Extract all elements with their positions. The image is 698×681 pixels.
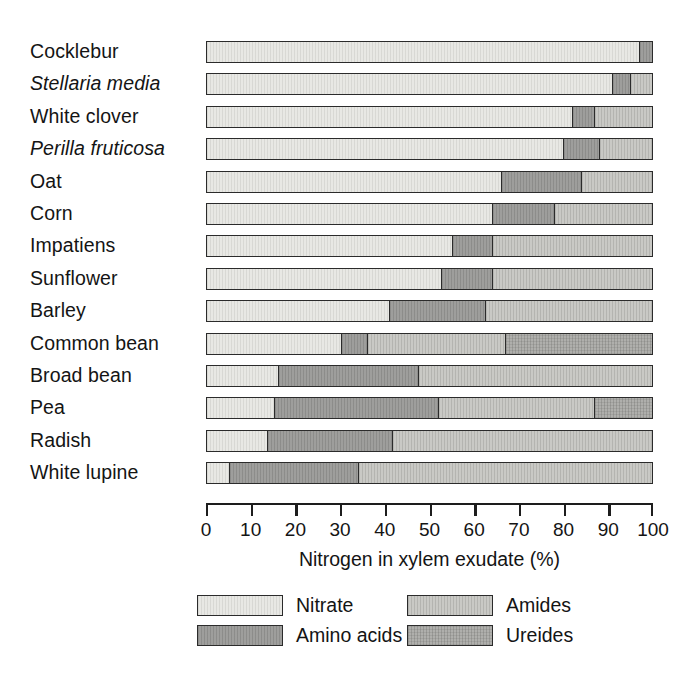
stacked-bar bbox=[206, 138, 653, 160]
figure-nitrogen-xylem-exudate: CockleburStellaria mediaWhite cloverPeri… bbox=[0, 0, 698, 681]
bar-segment-nitrate bbox=[207, 366, 278, 386]
bar-row bbox=[206, 263, 653, 295]
category-label: Impatiens bbox=[0, 230, 196, 262]
bar-segment-nitrate bbox=[207, 107, 572, 127]
category-label: Pea bbox=[0, 392, 196, 424]
stacked-bar bbox=[206, 203, 653, 225]
legend-swatch-amides bbox=[407, 595, 493, 616]
bar-segment-amino-acids bbox=[229, 463, 358, 483]
chart-legend: NitrateAmidesAmino acidsUreides bbox=[197, 590, 617, 650]
x-axis-tick bbox=[251, 503, 253, 516]
bar-segment-amides bbox=[358, 463, 652, 483]
bar-segment-nitrate bbox=[207, 398, 274, 418]
stacked-bar bbox=[206, 106, 653, 128]
bar-row bbox=[206, 295, 653, 327]
x-axis-tick bbox=[430, 503, 432, 516]
x-axis-tick-label: 10 bbox=[240, 519, 261, 541]
bar-segment-amino-acids bbox=[563, 139, 599, 159]
bar-segment-nitrate bbox=[207, 139, 563, 159]
x-axis-tick-label: 30 bbox=[330, 519, 351, 541]
bar-segment-amides bbox=[594, 107, 652, 127]
stacked-bar bbox=[206, 300, 653, 322]
x-axis-tick bbox=[340, 503, 342, 516]
x-axis-title: Nitrogen in xylem exudate (%) bbox=[206, 548, 653, 571]
legend-row: Amino acidsUreides bbox=[197, 620, 617, 650]
stacked-bar bbox=[206, 397, 653, 419]
bar-segment-nitrate bbox=[207, 463, 229, 483]
legend-label: Ureides bbox=[506, 624, 573, 647]
x-axis-tick-label: 40 bbox=[374, 519, 395, 541]
bar-segment-nitrate bbox=[207, 301, 389, 321]
category-label: Perilla fruticosa bbox=[0, 133, 196, 165]
legend-label: Amides bbox=[506, 594, 571, 617]
bar-segment-amino-acids bbox=[341, 334, 368, 354]
x-axis-tick-label: 100 bbox=[637, 519, 669, 541]
bar-segment-amino-acids bbox=[612, 74, 630, 94]
bar-row bbox=[206, 425, 653, 457]
legend-label: Amino acids bbox=[296, 624, 402, 647]
bar-segment-nitrate bbox=[207, 236, 452, 256]
bar-segment-nitrate bbox=[207, 269, 441, 289]
bar-segment-amides bbox=[485, 301, 652, 321]
x-axis-tick bbox=[206, 503, 208, 516]
x-axis-tick-label: 50 bbox=[419, 519, 440, 541]
x-axis-tick bbox=[519, 503, 521, 516]
category-label: Barley bbox=[0, 295, 196, 327]
x-axis-tick-label: 60 bbox=[464, 519, 485, 541]
category-label: Stellaria media bbox=[0, 68, 196, 100]
stacked-bar bbox=[206, 235, 653, 257]
legend-item-nitrate: Nitrate bbox=[197, 594, 407, 617]
bar-row bbox=[206, 101, 653, 133]
legend-item-amides: Amides bbox=[407, 594, 617, 617]
stacked-bar bbox=[206, 365, 653, 387]
bar-segment-amides bbox=[599, 139, 652, 159]
bar-segment-ureides bbox=[594, 398, 652, 418]
stacked-bar bbox=[206, 430, 653, 452]
bar-row bbox=[206, 360, 653, 392]
x-axis-tick bbox=[295, 503, 297, 516]
x-axis-tick-label: 70 bbox=[508, 519, 529, 541]
bar-segment-nitrate bbox=[207, 74, 612, 94]
bar-row bbox=[206, 36, 653, 68]
stacked-bar bbox=[206, 333, 653, 355]
bar-row bbox=[206, 133, 653, 165]
bar-segment-amino-acids bbox=[274, 398, 439, 418]
bar-segment-amides bbox=[581, 172, 652, 192]
bar-segment-amides bbox=[492, 236, 652, 256]
x-axis-tick bbox=[608, 503, 610, 516]
bar-segment-nitrate bbox=[207, 431, 267, 451]
category-label: Oat bbox=[0, 166, 196, 198]
bar-segment-ureides bbox=[505, 334, 652, 354]
legend-swatch-amino bbox=[197, 625, 283, 646]
x-axis-tick bbox=[385, 503, 387, 516]
bar-segment-amides bbox=[367, 334, 505, 354]
bar-segment-amides bbox=[392, 431, 652, 451]
stacked-bar bbox=[206, 41, 653, 63]
bar-segment-amides bbox=[438, 398, 594, 418]
category-label: White lupine bbox=[0, 457, 196, 489]
x-axis: 0102030405060708090100 bbox=[206, 503, 653, 517]
category-label: White clover bbox=[0, 101, 196, 133]
stacked-bar bbox=[206, 268, 653, 290]
category-label: Cocklebur bbox=[0, 36, 196, 68]
stacked-bar bbox=[206, 73, 653, 95]
bar-row bbox=[206, 68, 653, 100]
legend-swatch-ureides bbox=[407, 625, 493, 646]
legend-row: NitrateAmides bbox=[197, 590, 617, 620]
bar-segment-nitrate bbox=[207, 42, 639, 62]
bar-segment-amino-acids bbox=[492, 204, 554, 224]
bar-segment-amides bbox=[492, 269, 652, 289]
bar-segment-amino-acids bbox=[639, 42, 652, 62]
bar-segment-nitrate bbox=[207, 204, 492, 224]
x-axis-tick-label: 0 bbox=[201, 519, 212, 541]
x-axis-tick bbox=[651, 503, 653, 516]
category-label: Common bean bbox=[0, 328, 196, 360]
category-label: Broad bean bbox=[0, 360, 196, 392]
legend-item-ureides: Ureides bbox=[407, 624, 617, 647]
bar-segment-amino-acids bbox=[278, 366, 418, 386]
bar-row bbox=[206, 230, 653, 262]
bar-segment-amino-acids bbox=[572, 107, 594, 127]
stacked-bar bbox=[206, 171, 653, 193]
bar-row bbox=[206, 457, 653, 489]
bar-segment-amino-acids bbox=[389, 301, 485, 321]
